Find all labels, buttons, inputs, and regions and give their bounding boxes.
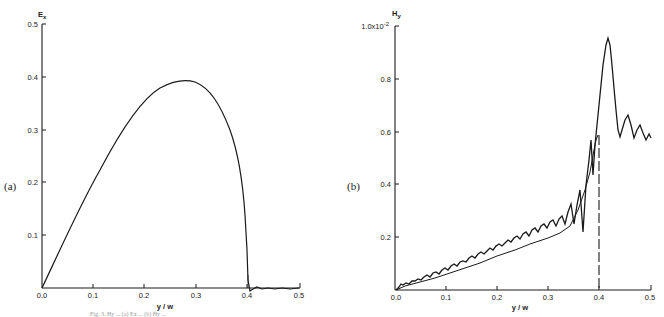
panel-a: (a) 0.1 0.2 0.3 0.4 0.5 Ex 0.0 0.1 (4, 10, 304, 311)
panel-a-x-tick-label: 0.4 (242, 291, 252, 300)
panel-a-y-axis-title: Ex (38, 10, 47, 20)
panel-b-x-tick-label: 0.4 (594, 293, 604, 302)
panel-b-y-tick-label: 0.2 (381, 233, 391, 242)
panel-a-x-ticks: 0.0 0.1 0.2 0.3 0.4 0.5 (37, 284, 304, 300)
panel-b-y-axis-title: Hy (392, 9, 401, 19)
panel-b-x-tick-label: 0.0 (391, 293, 401, 302)
panel-a-x-tick-label: 0.5 (294, 291, 304, 300)
panel-a-y-tick-label: 0.5 (28, 20, 38, 29)
panel-a-label: (a) (4, 180, 17, 193)
panel-b-x-ticks: 0.0 0.1 0.2 0.3 0.4 0.5 (391, 286, 655, 302)
panel-a-y-tick-label: 0.3 (28, 126, 38, 135)
panel-b-x-tick-label: 0.3 (543, 293, 553, 302)
panel-a-x-tick-label: 0.0 (37, 291, 47, 300)
panel-a-x-tick-label: 0.1 (88, 291, 98, 300)
panel-a-y-tick-label: 0.2 (28, 178, 38, 187)
panel-b-y-top-tick-label: 1.0x10-2 (361, 21, 390, 31)
panel-b-y-tick-label: 0.6 (381, 128, 391, 137)
panel-b-x-axis-title: y / w (512, 303, 528, 312)
panel-b: (b) 0.2 0.4 0.6 0.8 1.0x10-2 Hy 0.0 0 (347, 9, 655, 312)
panel-b-x-tick-label: 0.2 (492, 293, 502, 302)
figure-canvas: (a) 0.1 0.2 0.3 0.4 0.5 Ex 0.0 0.1 (0, 0, 664, 317)
panel-b-y-tick-label: 0.4 (381, 180, 391, 189)
panel-a-y-tick-label: 0.1 (28, 231, 38, 240)
panel-b-x-tick-label: 0.5 (645, 293, 655, 302)
panel-a-y-tick-label: 0.4 (28, 73, 38, 82)
panel-a-x-tick-label: 0.2 (139, 291, 149, 300)
panel-b-hy-curve (396, 38, 651, 290)
figure-caption: Fig. 3. Hy ... (a) Ex ... (b) Hy ... (90, 311, 166, 317)
panel-a-y-ticks: 0.1 0.2 0.3 0.4 0.5 (28, 20, 46, 240)
panel-b-x-tick-label: 0.1 (441, 293, 451, 302)
panel-b-label: (b) (347, 180, 360, 193)
panel-a-ex-curve (42, 80, 299, 291)
panel-b-y-ticks: 0.2 0.4 0.6 0.8 1.0x10-2 (361, 21, 399, 242)
panel-b-y-tick-label: 0.8 (381, 75, 391, 84)
panel-a-x-axis-title: y / w (157, 302, 173, 311)
panel-a-x-tick-label: 0.3 (191, 291, 201, 300)
